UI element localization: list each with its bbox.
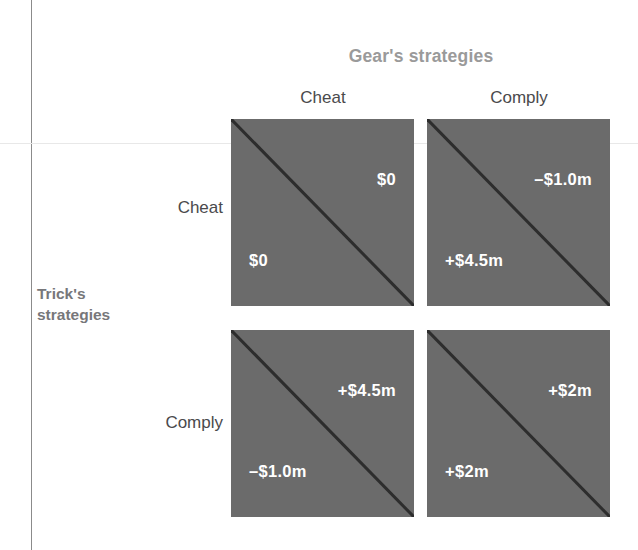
column-strategy-label-cheat: Cheat bbox=[231, 88, 415, 108]
payoff-column-player: +$2m bbox=[548, 381, 592, 400]
row-player-group-title-line1: Trick's bbox=[37, 283, 187, 304]
row-player-group-title-line2: strategies bbox=[37, 304, 187, 325]
row-strategy-label-cheat: Cheat bbox=[95, 198, 223, 218]
payoff-cell-cheat-comply: –$1.0m +$4.5m bbox=[427, 119, 610, 306]
payoff-column-player: $0 bbox=[377, 170, 396, 189]
diagonal-divider-icon bbox=[427, 330, 610, 517]
diagonal-divider-icon bbox=[427, 119, 610, 306]
row-player-group-title: Trick's strategies bbox=[37, 283, 187, 325]
diagonal-divider-icon bbox=[231, 119, 414, 306]
column-player-group-title: Gear's strategies bbox=[231, 46, 611, 67]
payoff-row-player: –$1.0m bbox=[249, 462, 307, 481]
payoff-cell-comply-cheat: +$4.5m –$1.0m bbox=[231, 330, 414, 517]
payoff-matrix-figure: Gear's strategies Trick's strategies Che… bbox=[0, 0, 638, 550]
row-strategy-label-comply: Comply bbox=[95, 413, 223, 433]
payoff-cell-cheat-cheat: $0 $0 bbox=[231, 119, 414, 306]
payoff-row-player: $0 bbox=[249, 251, 268, 270]
page-margin-vertical-rule bbox=[31, 0, 32, 550]
diagonal-divider-icon bbox=[231, 330, 414, 517]
payoff-column-player: +$4.5m bbox=[338, 381, 396, 400]
payoff-matrix-grid: $0 $0 –$1.0m +$4.5m +$4.5m –$1.0m +$2m +… bbox=[231, 119, 611, 517]
payoff-row-player: +$2m bbox=[445, 462, 489, 481]
column-strategy-label-comply: Comply bbox=[427, 88, 611, 108]
payoff-row-player: +$4.5m bbox=[445, 251, 503, 270]
payoff-cell-comply-comply: +$2m +$2m bbox=[427, 330, 610, 517]
payoff-column-player: –$1.0m bbox=[534, 170, 592, 189]
